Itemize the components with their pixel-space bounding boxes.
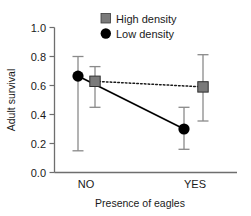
- legend-label-low-density: Low density: [116, 28, 175, 40]
- legend-square-marker-icon: [101, 14, 111, 24]
- y-axis-title: Adult survival: [5, 69, 17, 131]
- data-markers: [72, 71, 208, 135]
- y-tick-label-0.4: 0.4: [31, 109, 46, 121]
- chart-legend: High density Low density: [101, 13, 177, 40]
- chart-figure: High density Low density 1.0 0.8 0.6 0.4…: [0, 0, 251, 216]
- chart-axes: 1.0 0.8 0.6 0.4 0.2 0.0 Adult survival N…: [5, 22, 237, 210]
- legend-circle-marker-icon: [101, 28, 111, 38]
- data-point-high-density-yes: [198, 82, 208, 92]
- y-tick-label-1.0: 1.0: [31, 22, 46, 34]
- adult-survival-chart-svg: High density Low density 1.0 0.8 0.6 0.4…: [0, 0, 251, 216]
- x-tick-label-no: NO: [78, 178, 95, 190]
- x-axis-title: Presence of eagles: [95, 197, 185, 209]
- error-bars: [73, 55, 209, 151]
- series-line-high-density: [95, 81, 203, 87]
- data-point-low-density-no: [72, 71, 83, 82]
- legend-label-high-density: High density: [116, 13, 177, 25]
- data-point-low-density-yes: [178, 123, 189, 134]
- y-tick-label-0.6: 0.6: [31, 80, 46, 92]
- y-tick-label-0.8: 0.8: [31, 51, 46, 63]
- x-tick-label-yes: YES: [184, 178, 206, 190]
- data-point-high-density-no: [90, 76, 100, 86]
- y-tick-label-0.0: 0.0: [31, 167, 46, 179]
- y-tick-label-0.2: 0.2: [31, 138, 46, 150]
